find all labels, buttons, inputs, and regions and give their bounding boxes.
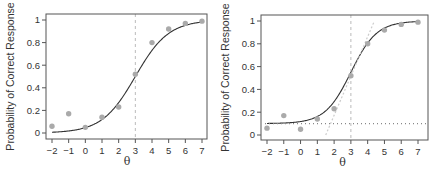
- data-point: [116, 104, 121, 109]
- x-tick-label: 6: [399, 146, 404, 157]
- chart-figure: 00.20.40.60.81−2−101234567θProbability o…: [0, 0, 434, 178]
- y-tick-label: 1: [250, 15, 255, 26]
- y-tick-label: 0.4: [27, 82, 40, 93]
- x-tick-label: 3: [133, 145, 138, 156]
- data-point: [49, 124, 54, 129]
- x-tick-label: 5: [166, 145, 171, 156]
- item-characteristic-curve: [267, 22, 418, 124]
- data-point: [149, 40, 154, 45]
- data-point: [382, 27, 387, 32]
- x-tick-label: 0: [83, 145, 88, 156]
- x-tick-label: 7: [199, 145, 204, 156]
- x-tick-label: −1: [63, 145, 74, 156]
- data-point: [264, 125, 269, 130]
- y-tick-label: 0.6: [27, 60, 40, 71]
- x-tick-label: 4: [365, 146, 370, 157]
- y-tick-label: 0.8: [27, 37, 40, 48]
- y-tick-label: 0: [35, 127, 40, 138]
- data-point: [66, 111, 71, 116]
- data-point: [315, 116, 320, 121]
- y-tick-label: 0.2: [242, 107, 255, 118]
- y-tick-label: 0.4: [242, 84, 255, 95]
- data-point: [133, 72, 138, 77]
- x-tick-label: 7: [415, 146, 420, 157]
- x-tick-label: −2: [262, 146, 273, 157]
- x-tick-label: 2: [116, 145, 121, 156]
- data-point: [166, 26, 171, 31]
- left-chart-panel: 00.20.40.60.81−2−101234567θProbability o…: [4, 2, 207, 168]
- right-chart-panel: 00.20.40.60.81−2−101234567θProbability o…: [219, 3, 428, 169]
- y-tick-label: 0: [250, 129, 255, 140]
- x-tick-label: 1: [99, 145, 104, 156]
- data-point: [331, 106, 336, 111]
- x-tick-label: 5: [382, 146, 387, 157]
- x-tick-label: 4: [149, 145, 154, 156]
- data-point: [281, 113, 286, 118]
- y-tick-label: 1: [35, 14, 40, 25]
- data-point: [83, 125, 88, 130]
- x-tick-label: 1: [315, 146, 320, 157]
- x-tick-label: 0: [298, 146, 303, 157]
- data-point: [348, 73, 353, 78]
- x-tick-label: −2: [47, 145, 58, 156]
- data-point: [415, 19, 420, 24]
- y-tick-label: 0.8: [242, 38, 255, 49]
- data-point: [99, 114, 104, 119]
- data-point: [183, 21, 188, 26]
- data-point: [199, 18, 204, 23]
- x-tick-label: 2: [331, 146, 336, 157]
- x-tick-label: 3: [348, 146, 353, 157]
- data-point: [365, 41, 370, 46]
- x-tick-label: −1: [278, 146, 289, 157]
- y-axis-label: Probability of Correct Response: [219, 3, 231, 151]
- data-point: [399, 22, 404, 27]
- x-axis-label: θ: [339, 156, 346, 169]
- plot-frame: [261, 15, 428, 140]
- item-characteristic-curve: [52, 22, 202, 132]
- x-tick-label: 6: [183, 145, 188, 156]
- data-point: [298, 127, 303, 132]
- y-tick-label: 0.2: [27, 105, 40, 116]
- x-axis-label: θ: [124, 155, 131, 168]
- y-axis-label: Probability of Correct Response: [4, 2, 16, 150]
- plot-frame: [46, 14, 207, 139]
- y-tick-label: 0.6: [242, 61, 255, 72]
